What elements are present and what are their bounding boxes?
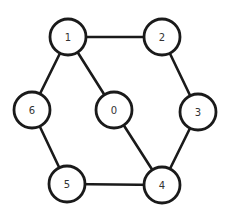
node-label: 0 [111,105,117,116]
node-label: 1 [65,32,71,43]
node-4: 4 [144,167,180,203]
node-2: 2 [144,19,180,55]
node-6: 6 [14,92,50,128]
node-3: 3 [180,94,216,130]
node-0: 0 [96,92,132,128]
node-label: 2 [159,32,165,43]
node-5: 5 [49,166,85,202]
node-label: 3 [195,107,201,118]
node-1: 1 [50,19,86,55]
node-label: 6 [29,105,35,116]
node-label: 4 [159,180,165,191]
node-label: 5 [64,179,70,190]
nodes-layer: 0123456 [14,19,216,203]
graph-diagram: 0123456 [0,0,229,216]
